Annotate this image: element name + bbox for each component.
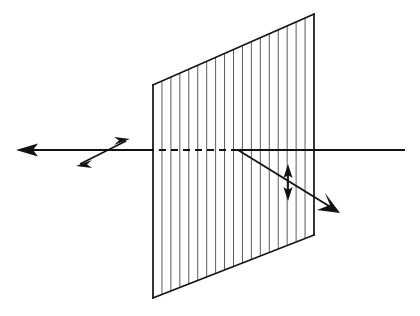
polarizer-diagram [0,0,420,316]
diagram-canvas [0,0,420,316]
